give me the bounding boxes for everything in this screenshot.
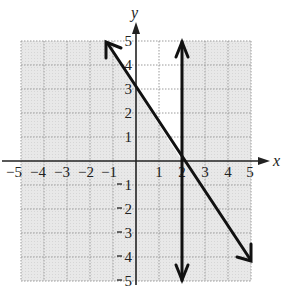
svg-text:3: 3 bbox=[125, 81, 133, 97]
y-axis-arrow-icon bbox=[132, 22, 140, 34]
svg-text:−4: −4 bbox=[30, 164, 46, 180]
svg-text:4: 4 bbox=[224, 164, 232, 180]
svg-text:−3: −3 bbox=[54, 164, 70, 180]
svg-text:4: 4 bbox=[125, 249, 133, 265]
svg-text:3: 3 bbox=[201, 164, 209, 180]
svg-text:−2: −2 bbox=[78, 164, 94, 180]
x-axis-label: x bbox=[272, 152, 280, 169]
svg-text:3: 3 bbox=[125, 225, 133, 241]
svg-text:1: 1 bbox=[155, 164, 163, 180]
svg-text:2: 2 bbox=[125, 105, 133, 121]
y-axis-label: y bbox=[129, 4, 139, 22]
svg-text:−1: −1 bbox=[101, 164, 117, 180]
svg-text:1: 1 bbox=[125, 177, 133, 193]
x-axis-arrow-icon bbox=[258, 157, 270, 165]
svg-text:−5: −5 bbox=[6, 164, 22, 180]
svg-text:5: 5 bbox=[125, 273, 133, 289]
svg-text:2: 2 bbox=[125, 201, 133, 217]
graph: x y −5 −4 −3 −2 −1 1 2 3 4 5 1 2 3 4 5 1… bbox=[0, 0, 286, 289]
svg-text:5: 5 bbox=[125, 33, 133, 49]
svg-text:5: 5 bbox=[246, 164, 254, 180]
svg-text:1: 1 bbox=[125, 129, 133, 145]
